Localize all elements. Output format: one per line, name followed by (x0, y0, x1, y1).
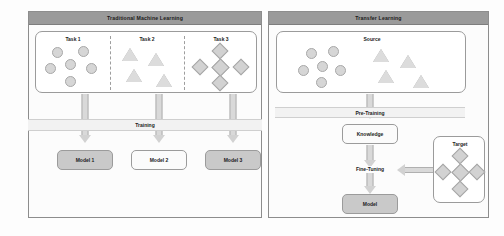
task-divider-1 (110, 36, 111, 90)
source-circle (306, 48, 317, 59)
traditional-ml-title: Traditional Machine Learning (107, 15, 183, 21)
source-triangle (400, 55, 416, 68)
task-1-label: Task 1 (36, 36, 110, 42)
task-1-circle (52, 47, 63, 58)
task-2-triangle (156, 74, 172, 87)
traditional-ml-panel: Traditional Machine Learning Task 1 Task… (28, 11, 262, 218)
knowledge-label: Knowledge (357, 131, 384, 137)
task-2-triangle (122, 48, 138, 61)
finetuning-to-model-arrow (364, 173, 376, 195)
knowledge-box[interactable]: Knowledge (342, 124, 398, 144)
model-1-label: Model 1 (76, 157, 95, 163)
transfer-model-box[interactable]: Model (342, 194, 398, 214)
task-1-circle (78, 46, 89, 57)
target-diamond (451, 163, 469, 181)
transfer-model-label: Model (363, 201, 377, 207)
target-diamond (452, 181, 469, 198)
fine-tuning-label: Fine-Tuning (355, 166, 385, 172)
diagram-canvas: Traditional Machine Learning Task 1 Task… (0, 0, 504, 236)
tasks-container: Task 1 Task 2 Task 3 (35, 31, 257, 93)
task-2-triangle (148, 53, 164, 66)
pretraining-band-label: Pre-Training (355, 110, 384, 116)
task-divider-2 (184, 36, 185, 90)
transfer-learning-title: Transfer Learning (355, 15, 401, 21)
task-3-diamond (233, 59, 250, 76)
pretraining-band: Pre-Training (275, 107, 465, 118)
task-1-circle (86, 63, 97, 74)
source-triangle (373, 49, 389, 62)
source-triangle (413, 75, 429, 88)
target-diamond (435, 164, 452, 181)
target-label: Target (434, 141, 486, 147)
traditional-ml-title-bar: Traditional Machine Learning (29, 12, 261, 25)
model-3-label: Model 3 (224, 157, 243, 163)
task-3-diamond (212, 75, 229, 92)
target-to-finetuning-arrow (397, 164, 437, 175)
target-diamond (469, 164, 486, 181)
model-1-box[interactable]: Model 1 (57, 150, 113, 170)
target-container: Target (433, 136, 485, 203)
transfer-learning-title-bar: Transfer Learning (269, 12, 488, 25)
task-2-triangle (126, 69, 142, 82)
task-1-circle (45, 63, 56, 74)
transfer-learning-panel: Transfer Learning Source Pre-Training (268, 11, 489, 218)
source-circle (335, 65, 346, 76)
model-2-box[interactable]: Model 2 (131, 150, 187, 170)
model-3-box[interactable]: Model 3 (205, 150, 261, 170)
source-triangle (378, 70, 394, 83)
source-circle (298, 65, 309, 76)
training-band: Training (28, 119, 262, 131)
source-circle (316, 77, 327, 88)
task-1-circle (65, 76, 76, 87)
task-2-label: Task 2 (110, 36, 184, 42)
source-circle (317, 61, 328, 72)
source-circle (328, 46, 339, 57)
task-3-label: Task 3 (184, 36, 258, 42)
task-3-diamond (192, 59, 209, 76)
model-2-label: Model 2 (150, 157, 169, 163)
source-label: Source (277, 36, 467, 42)
training-band-label: Training (135, 122, 154, 128)
task-1-circle (65, 59, 76, 70)
source-container: Source (276, 31, 466, 93)
task-3-diamond (211, 58, 229, 76)
